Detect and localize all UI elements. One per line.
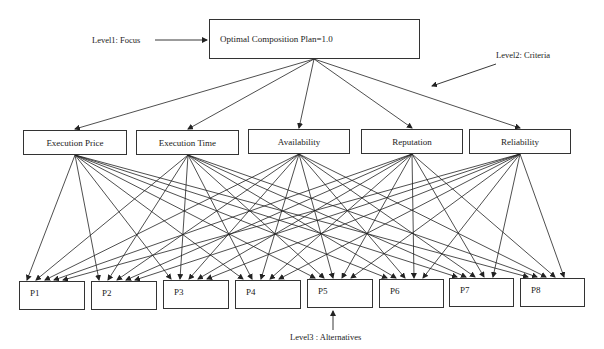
alternative-p8: P8 <box>520 278 585 307</box>
alternative-p4: P4 <box>235 280 301 309</box>
criterion-reliability: Reliability <box>469 129 571 154</box>
criterion-execution-price: Execution Price <box>23 130 127 155</box>
focus-node: Optimal Composition Plan=1.0 <box>209 19 420 59</box>
alternative-p1: P1 <box>19 281 85 310</box>
alternative-p3: P3 <box>163 280 229 309</box>
alternative-p6: P6 <box>379 279 444 308</box>
level2-label: Level2: Criteria <box>496 50 550 60</box>
level3-label: Level3 : Alternatives <box>290 332 361 342</box>
alternative-p7: P7 <box>449 278 514 307</box>
criterion-reputation: Reputation <box>361 129 463 154</box>
criterion-availability: Availability <box>248 129 350 154</box>
level1-label: Level1: Focus <box>92 35 140 45</box>
alternative-p5: P5 <box>307 279 373 308</box>
alternative-p2: P2 <box>91 281 157 310</box>
criterion-execution-time: Execution Time <box>136 130 239 155</box>
